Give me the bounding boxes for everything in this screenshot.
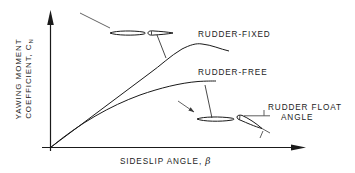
x-axis-label: SIDESLIP ANGLE, β (120, 157, 210, 166)
rudder-fixed-label: RUDDER-FIXED (198, 31, 271, 39)
y-axis-label: YAWING MOMENT COEFFICIENT, CN (14, 34, 36, 124)
y-axis-label-line2: COEFFICIENT, CN (24, 34, 36, 124)
rudder-float-angle-label-line1: RUDDER FLOAT (268, 104, 342, 112)
float-angle-tick-bottom (260, 131, 263, 138)
y-axis-label-line1: YAWING MOMENT (14, 34, 24, 124)
leader-line-fixed (157, 35, 166, 58)
rudder-free-label: RUDDER-FREE (198, 69, 268, 77)
x-axis-label-text: SIDESLIP ANGLE, (120, 157, 205, 166)
rudder-free-curve (51, 81, 217, 148)
airfoil-rudder-free-icon (178, 85, 270, 138)
airfoil-rudder-fixed-icon (80, 13, 173, 58)
y-axis-label-subscript: N (28, 39, 34, 43)
rudder-float-angle-label-line2: ANGLE (281, 114, 313, 122)
float-angle-rudder-line (262, 129, 270, 134)
beta-symbol: β (205, 156, 210, 166)
yawing-moment-diagram (0, 0, 355, 173)
leader-line-free (205, 85, 212, 118)
y-axis-label-text: COEFFICIENT, C (24, 44, 33, 119)
y-axis (47, 10, 54, 151)
x-axis-arrow-icon (291, 145, 306, 151)
y-axis-arrow-icon (47, 10, 54, 25)
x-axis (42, 145, 306, 151)
